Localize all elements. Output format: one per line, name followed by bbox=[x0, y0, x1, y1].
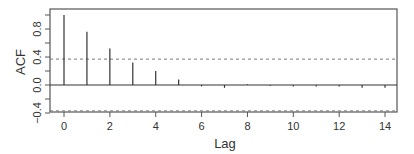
x-tick-label: 4 bbox=[153, 120, 159, 132]
y-axis-label: ACF bbox=[13, 49, 28, 75]
x-tick-label: 6 bbox=[199, 120, 205, 132]
x-tick-label: 14 bbox=[379, 120, 391, 132]
y-axis: −0.40.00.40.8 bbox=[31, 15, 50, 124]
x-axis: 02468101214 bbox=[61, 112, 391, 132]
y-tick-label: −0.4 bbox=[31, 102, 43, 124]
x-tick-label: 12 bbox=[333, 120, 345, 132]
x-tick-label: 10 bbox=[287, 120, 299, 132]
y-tick-label: 0.4 bbox=[31, 49, 43, 64]
y-tick-label: 0.0 bbox=[31, 77, 43, 92]
acf-chart: 02468101214 −0.40.00.40.8 Lag ACF bbox=[0, 0, 414, 154]
acf-spikes bbox=[64, 15, 385, 88]
x-tick-label: 8 bbox=[244, 120, 250, 132]
y-tick-label: 0.8 bbox=[31, 21, 43, 36]
x-axis-label: Lag bbox=[214, 136, 236, 151]
x-tick-label: 0 bbox=[61, 120, 67, 132]
x-tick-label: 2 bbox=[107, 120, 113, 132]
plot-frame bbox=[50, 9, 397, 112]
plot-border bbox=[50, 9, 397, 112]
